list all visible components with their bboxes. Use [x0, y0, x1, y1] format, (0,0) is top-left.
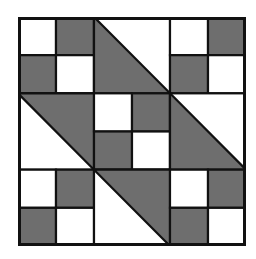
quilt-block-drawing	[18, 17, 246, 246]
light-square	[56, 208, 94, 246]
light-square	[18, 170, 56, 208]
dark-square	[18, 208, 56, 246]
half-square-triangle-unit	[94, 17, 170, 93]
dark-square	[94, 132, 132, 170]
light-square	[170, 170, 208, 208]
dark-square	[170, 208, 208, 246]
dark-square	[170, 55, 208, 93]
dark-square	[208, 170, 246, 208]
four-patch-unit	[94, 93, 170, 169]
light-square	[18, 17, 56, 55]
dark-square	[208, 17, 246, 55]
half-square-triangle-unit	[94, 170, 170, 246]
quilt-block	[18, 17, 246, 246]
light-square	[208, 55, 246, 93]
light-square	[56, 55, 94, 93]
light-square	[132, 132, 170, 170]
half-square-triangle-unit	[18, 93, 94, 169]
four-patch-unit	[170, 170, 246, 246]
dark-square	[56, 170, 94, 208]
dark-square	[56, 17, 94, 55]
four-patch-unit	[18, 170, 94, 246]
light-square	[94, 93, 132, 131]
light-square	[170, 17, 208, 55]
half-square-triangle-unit	[170, 93, 246, 169]
light-square	[208, 208, 246, 246]
four-patch-unit	[18, 17, 94, 93]
dark-square	[18, 55, 56, 93]
dark-square	[132, 93, 170, 131]
four-patch-unit	[170, 17, 246, 93]
